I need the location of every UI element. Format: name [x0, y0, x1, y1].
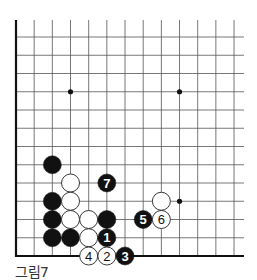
black-stone	[62, 229, 80, 247]
black-stone	[43, 211, 61, 229]
move-number: 7	[103, 176, 110, 191]
black-stone: 3	[116, 247, 134, 265]
black-stone: 7	[98, 174, 116, 192]
black-stone: 1	[98, 229, 116, 247]
black-stone	[98, 211, 116, 229]
black-stone	[43, 156, 61, 174]
white-stone: 6	[152, 211, 170, 229]
white-stone: 2	[98, 247, 116, 265]
white-stone	[62, 174, 80, 192]
white-stone: 4	[80, 247, 98, 265]
white-stone	[62, 192, 80, 210]
move-number: 1	[103, 230, 110, 245]
white-stone	[80, 229, 98, 247]
move-number: 3	[121, 249, 128, 264]
figure-caption: 그림7	[15, 261, 48, 280]
white-stone	[80, 211, 98, 229]
move-number: 4	[85, 249, 92, 264]
go-board: 7561423	[0, 0, 257, 280]
white-stone	[152, 192, 170, 210]
black-stone: 5	[134, 211, 152, 229]
black-stone	[43, 229, 61, 247]
star-point-icon	[177, 199, 182, 204]
move-number: 6	[158, 212, 165, 227]
white-stone	[62, 211, 80, 229]
move-number: 2	[103, 249, 110, 264]
move-number: 5	[140, 212, 147, 227]
black-stone	[43, 192, 61, 210]
star-point-icon	[177, 89, 182, 94]
star-point-icon	[68, 89, 73, 94]
